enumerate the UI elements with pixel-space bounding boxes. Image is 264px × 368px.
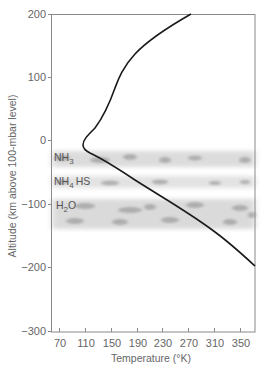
x-tick-70: 70 [54, 337, 66, 349]
nh3-cloud-band [52, 151, 255, 167]
y-axis-title: Altitude (km above 100-mbar level) [6, 95, 18, 258]
y-tick-neg300: −300 [21, 325, 46, 337]
y-tick-neg100: −100 [21, 198, 46, 210]
plot-frame [52, 15, 256, 333]
x-axis [60, 328, 241, 332]
altitude-temperature-chart: 200 100 0 −100 −200 −300 70 110 150 190 … [0, 0, 264, 368]
y-tick-100: 100 [28, 71, 46, 83]
y-tick-labels: 200 100 0 −100 −200 −300 [21, 8, 46, 337]
x-tick-150: 150 [103, 337, 121, 349]
x-tick-350: 350 [232, 337, 250, 349]
x-tick-190: 190 [129, 337, 147, 349]
x-tick-270: 270 [180, 337, 198, 349]
y-tick-neg200: −200 [21, 261, 46, 273]
x-tick-labels: 70 110 150 190 230 270 310 350 [54, 337, 250, 349]
y-tick-0: 0 [40, 134, 46, 146]
x-tick-310: 310 [206, 337, 224, 349]
x-tick-110: 110 [77, 337, 95, 349]
y-axis [48, 15, 52, 332]
y-tick-200: 200 [28, 8, 46, 20]
x-tick-230: 230 [154, 337, 172, 349]
x-axis-title: Temperature (°K) [111, 352, 191, 364]
cloud-bands [52, 151, 255, 229]
